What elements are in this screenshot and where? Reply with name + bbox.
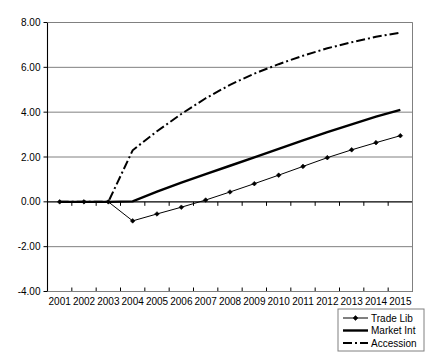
y-axis-tick-label: -4.00: [18, 286, 41, 297]
x-axis-tick-label: 2012: [316, 296, 339, 307]
legend-label-market-int: Market Int: [371, 325, 416, 336]
x-axis-tick-label: 2007: [195, 296, 218, 307]
chart-container: -4.00-2.000.002.004.006.008.00 200120022…: [0, 0, 426, 356]
legend-label-accession: Accession: [371, 338, 417, 349]
x-axis-tick-label: 2005: [146, 296, 169, 307]
x-axis-tick-label: 2002: [73, 296, 96, 307]
x-axis-tick-label: 2014: [365, 296, 388, 307]
x-axis-tick-label: 2015: [389, 296, 412, 307]
y-axis-tick-label: 6.00: [21, 62, 41, 73]
legend-label-trade-lib: Trade Lib: [371, 313, 413, 324]
chart-legend: Trade LibMarket IntAccession: [338, 309, 424, 351]
x-axis-tick-label: 2008: [219, 296, 242, 307]
x-axis-tick-label: 2003: [97, 296, 120, 307]
x-axis-tick-label: 2011: [292, 296, 314, 307]
x-axis-tick-label: 2013: [341, 296, 364, 307]
x-axis-tick-label: 2010: [268, 296, 291, 307]
x-axis-tick-label: 2001: [49, 296, 72, 307]
y-axis-tick-label: -2.00: [18, 241, 41, 252]
line-chart: -4.00-2.000.002.004.006.008.00 200120022…: [0, 0, 426, 356]
y-axis-tick-label: 0.00: [21, 196, 41, 207]
x-axis-tick-labels: 2001200220032004200520062007200820092010…: [49, 296, 412, 307]
y-axis-tick-label: 2.00: [21, 152, 41, 163]
y-axis-tick-label: 8.00: [21, 17, 41, 28]
x-axis-tick-label: 2009: [243, 296, 266, 307]
x-axis-tick-label: 2006: [170, 296, 193, 307]
x-axis-tick-label: 2004: [122, 296, 145, 307]
y-axis-tick-label: 4.00: [21, 107, 41, 118]
